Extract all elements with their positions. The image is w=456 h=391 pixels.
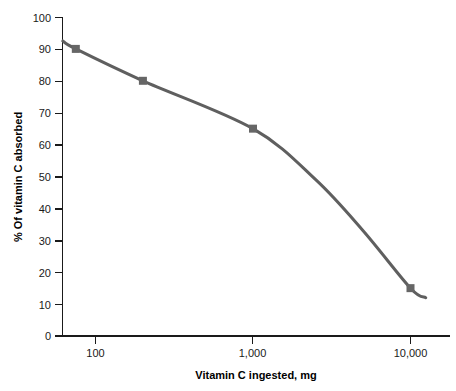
x-tick-label-10000: 10,000 [394,347,428,359]
x-tick-label-100: 100 [86,347,104,359]
data-point-marker [139,77,147,85]
data-point-marker [407,284,415,292]
data-point-marker [72,45,80,53]
y-axis-title: % Of vitamin C absorbed [12,112,24,242]
y-tick-label-30: 30 [39,235,51,247]
y-axis-ticks [55,18,63,337]
series-line-vitamin-c [63,41,426,298]
x-axis-ticks [96,336,411,344]
data-point-marker [249,125,257,133]
y-tick-label-100: 100 [33,12,51,24]
chart-container: 100 90 80 70 60 50 40 30 20 10 0 100 1,0… [0,0,456,391]
y-tick-label-40: 40 [39,203,51,215]
line-chart: 100 90 80 70 60 50 40 30 20 10 0 100 1,0… [0,0,456,391]
y-tick-label-50: 50 [39,171,51,183]
y-tick-label-0: 0 [45,330,51,342]
y-tick-label-60: 60 [39,139,51,151]
series-markers [72,45,415,292]
y-tick-label-10: 10 [39,299,51,311]
x-tick-label-1000: 1,000 [239,347,267,359]
y-tick-label-80: 80 [39,75,51,87]
y-tick-label-20: 20 [39,267,51,279]
y-tick-label-90: 90 [39,43,51,55]
x-axis-title: Vitamin C ingested, mg [195,369,316,381]
y-tick-label-70: 70 [39,107,51,119]
